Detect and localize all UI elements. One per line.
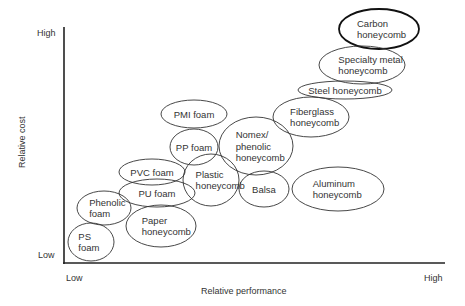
bubble-label: Steel honeycomb	[308, 85, 381, 96]
material-bubble-aluminum-honeycomb: Aluminumhoneycomb	[292, 167, 384, 211]
material-bubble-pu-foam: PU foam	[119, 179, 195, 207]
x-tick-low: Low	[66, 273, 83, 283]
bubble-label: foam	[78, 242, 99, 253]
bubble-label: Plastic	[196, 169, 224, 180]
material-bubble-steel-honeycomb: Steel honeycomb	[298, 81, 392, 99]
bubble-label: PS	[78, 231, 91, 242]
material-bubble-ps-foam: PSfoam	[68, 223, 114, 261]
x-tick-high: High	[424, 273, 443, 283]
material-bubble-nomex-phenolic-honeycomb: Nomex/phenolichoneycomb	[219, 117, 293, 175]
material-bubbles: CarbonhoneycombSpecialty metalhoneycombS…	[68, 9, 419, 261]
bubble-label: honeycomb	[236, 152, 285, 163]
bubble-label: foam	[89, 208, 110, 219]
bubble-label: honeycomb	[357, 29, 406, 40]
bubble-label: Aluminum	[313, 178, 355, 189]
bubble-label: Balsa	[252, 184, 276, 195]
material-bubble-balsa: Balsa	[239, 171, 289, 207]
bubble-label: Fiberglass	[290, 106, 334, 117]
bubble-label: honeycomb	[338, 65, 387, 76]
bubble-label: Phenolic	[89, 197, 126, 208]
bubble-label: PP foam	[176, 142, 212, 153]
bubble-label: honeycomb	[313, 189, 362, 200]
material-bubble-paper-honeycomb: Paperhoneycomb	[126, 205, 196, 247]
y-axis-label: Relative cost	[17, 116, 27, 168]
y-tick-high: High	[37, 28, 56, 38]
material-bubble-carbon-honeycomb: Carbonhoneycomb	[339, 9, 419, 49]
bubble-label: honeycomb	[290, 117, 339, 128]
bubble-label: phenolic	[236, 141, 272, 152]
bubble-label: PVC foam	[130, 167, 173, 178]
bubble-label: PMI foam	[174, 109, 215, 120]
material-bubble-pmi-foam: PMI foam	[161, 100, 227, 128]
materials-cost-performance-diagram: High Low Low High Relative performance R…	[0, 0, 465, 306]
bubble-label: Nomex/	[236, 129, 269, 140]
material-bubble-fiberglass-honeycomb: Fiberglasshoneycomb	[273, 97, 349, 137]
bubble-label: Carbon	[357, 18, 388, 29]
bubble-label: Specialty metal	[338, 54, 402, 65]
bubble-label: PU foam	[139, 188, 176, 199]
bubble-label: Paper	[142, 215, 167, 226]
bubble-label: honeycomb	[196, 180, 245, 191]
y-tick-low: Low	[38, 250, 55, 260]
bubble-label: honeycomb	[142, 226, 191, 237]
material-bubble-specialty-metal-honeycomb: Specialty metalhoneycomb	[319, 46, 405, 84]
x-axis-label: Relative performance	[201, 286, 287, 296]
material-bubble-phenolic-foam: Phenolicfoam	[77, 191, 131, 225]
